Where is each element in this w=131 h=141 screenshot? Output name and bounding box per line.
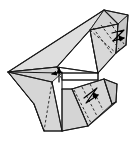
folding-diagram-svg — [0, 0, 131, 141]
face-mid-connector-band — [62, 73, 98, 80]
figure-container — [0, 0, 131, 141]
